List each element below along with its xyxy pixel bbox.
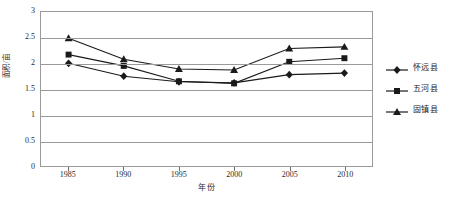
y-tick-label: 0	[31, 163, 35, 171]
gridline	[41, 116, 372, 117]
legend-item-2[interactable]: 五河县	[385, 78, 453, 99]
gridline	[41, 90, 372, 91]
diamond-marker-icon	[286, 71, 293, 79]
y-axis-tick-labels: 00.511.522.53	[12, 0, 38, 170]
line-chart: 面积/亩 00.511.522.53 198519901995200020052…	[0, 0, 453, 203]
gridline	[41, 38, 372, 39]
diamond-marker-icon	[385, 62, 409, 74]
y-tick-label: 1	[31, 111, 35, 119]
series-3	[65, 34, 349, 73]
x-axis-tick-labels: 198519901995200020052010	[40, 167, 373, 183]
x-tick-label: 2005	[282, 171, 298, 179]
x-tick-label: 2000	[226, 171, 242, 179]
x-axis-title: 年份	[40, 184, 373, 192]
legend-item-3[interactable]: 固镇县	[385, 99, 453, 120]
x-tick-label: 1995	[171, 171, 187, 179]
square-marker-icon	[66, 52, 72, 58]
diamond-marker-icon	[341, 69, 348, 77]
square-marker-icon	[176, 78, 182, 84]
square-marker-icon	[231, 80, 237, 86]
legend-item-1[interactable]: 怀远县	[385, 57, 453, 78]
diamond-marker-icon	[393, 66, 400, 74]
series-line	[69, 38, 345, 70]
y-axis-title: 面积/亩	[3, 43, 11, 89]
x-tick-label: 1990	[115, 171, 131, 179]
x-tick-label: 2010	[337, 171, 353, 179]
square-marker-icon	[385, 83, 409, 95]
gridline	[41, 142, 372, 143]
gridline	[41, 64, 372, 65]
y-tick-label: 3	[31, 7, 35, 15]
series-line	[69, 63, 345, 83]
legend-label: 怀远县	[413, 64, 438, 72]
y-tick-label: 1.5	[25, 85, 35, 93]
x-tick-label: 1985	[60, 171, 76, 179]
triangle-marker-icon	[385, 104, 409, 116]
y-tick-label: 2	[31, 59, 35, 67]
diamond-marker-icon	[120, 72, 127, 80]
y-tick-label: 2.5	[25, 33, 35, 41]
plot-area	[40, 11, 373, 167]
legend-label: 五河县	[413, 85, 438, 93]
y-tick-label: 0.5	[25, 137, 35, 145]
square-marker-icon	[394, 88, 400, 94]
square-marker-icon	[341, 55, 347, 61]
triangle-marker-icon	[340, 43, 348, 50]
legend-label: 固镇县	[413, 106, 438, 114]
chart-legend: 怀远县五河县固镇县	[385, 57, 453, 120]
